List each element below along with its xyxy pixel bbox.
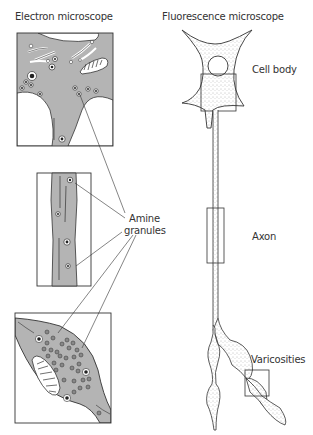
em-varicosity-panel bbox=[15, 313, 111, 423]
em-cell-body-panel bbox=[17, 33, 113, 146]
fluorescence-neuron bbox=[182, 30, 286, 430]
em-axon-panel bbox=[37, 173, 91, 286]
diagram-canvas bbox=[0, 0, 313, 435]
